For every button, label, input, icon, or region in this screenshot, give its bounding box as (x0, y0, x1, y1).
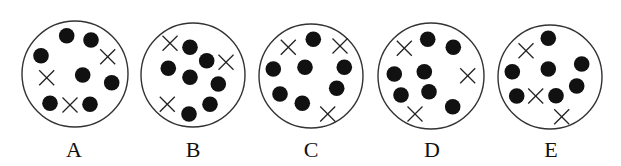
cross-icon (100, 49, 115, 64)
filled-dot (574, 56, 590, 72)
filled-dot (446, 40, 462, 56)
filled-dot (42, 96, 58, 112)
filled-dot (329, 81, 345, 97)
panel-a: A (22, 21, 128, 162)
filled-dot (82, 97, 98, 113)
panel-b: B (141, 23, 245, 162)
filled-dot (199, 53, 215, 69)
cross-icon (219, 55, 234, 70)
filled-dot (266, 61, 282, 77)
option-label: C (304, 137, 319, 162)
panel-c: C (259, 24, 363, 162)
filled-dot (387, 66, 403, 82)
filled-dot (541, 31, 557, 47)
cross-icon (460, 68, 475, 83)
panel-e: E (498, 25, 602, 162)
filled-dot (420, 32, 436, 48)
cross-icon (63, 98, 78, 113)
option-label: B (186, 137, 201, 162)
filled-dot (83, 32, 99, 48)
filled-dot (181, 106, 197, 122)
cross-icon (528, 89, 543, 104)
filled-dot (548, 88, 564, 104)
filled-dots-group (266, 32, 353, 112)
diagram-canvas: A B C D E (0, 0, 621, 166)
option-label: E (544, 137, 557, 162)
cross-icon (519, 43, 534, 58)
filled-dot (569, 78, 585, 94)
filled-dot (33, 48, 49, 64)
filled-dot (445, 99, 461, 115)
filled-dot (417, 64, 433, 80)
filled-dot (182, 70, 198, 86)
filled-dot (202, 97, 218, 113)
filled-dot (182, 40, 198, 56)
crosses-group (281, 39, 348, 122)
filled-dot (509, 88, 525, 104)
crosses-group (519, 43, 570, 124)
filled-dots-group (161, 40, 227, 122)
crosses-group (397, 41, 475, 122)
filled-dot (59, 28, 75, 44)
panel-d: D (378, 23, 484, 162)
filled-dot (161, 61, 177, 77)
cross-icon (39, 70, 54, 85)
cross-icon (554, 109, 569, 124)
filled-dot (104, 75, 120, 91)
filled-dot (272, 86, 288, 102)
cross-icon (160, 97, 175, 112)
cross-icon (333, 39, 348, 54)
cross-icon (397, 41, 412, 56)
filled-dot (505, 64, 521, 80)
filled-dot (306, 32, 322, 48)
filled-dot (421, 84, 437, 100)
filled-dot (337, 60, 353, 76)
cross-icon (163, 36, 178, 51)
filled-dot (393, 87, 409, 103)
filled-dot (75, 67, 91, 83)
filled-dot (295, 96, 311, 112)
filled-dot (541, 61, 557, 77)
option-label: D (424, 137, 440, 162)
cross-icon (408, 107, 423, 122)
option-label: A (66, 137, 82, 162)
particle-diagram-figure: A B C D E (0, 0, 621, 166)
filled-dot (211, 76, 227, 92)
filled-dots-group (505, 31, 590, 104)
filled-dot (297, 60, 313, 76)
cross-icon (320, 107, 335, 122)
filled-dots-group (387, 32, 462, 115)
cross-icon (281, 40, 296, 55)
